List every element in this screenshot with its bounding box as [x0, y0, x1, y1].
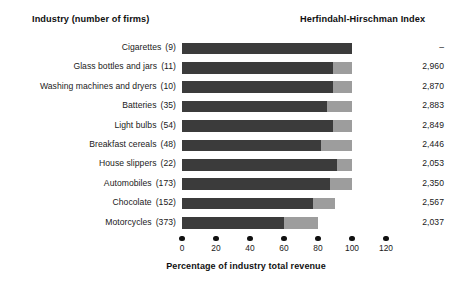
firm-count: (22) — [161, 158, 176, 168]
tick-dot-icon — [315, 236, 320, 241]
tick-label: 100 — [334, 243, 370, 253]
chart-row: Automobiles(173)2,350 — [0, 176, 450, 195]
bar-segment-dark — [182, 198, 313, 210]
tick-dot-icon — [349, 236, 354, 241]
firm-count: (173) — [156, 178, 176, 188]
row-label: Batteries(35) — [122, 100, 176, 110]
row-label: Glass bottles and jars(11) — [73, 61, 176, 71]
firm-count: (373) — [156, 217, 176, 227]
tick-dot-icon — [281, 236, 286, 241]
hhi-column-header: Herfindahl-Hirschman Index — [300, 14, 425, 24]
bar-track — [182, 120, 408, 132]
tick-label: 0 — [164, 243, 200, 253]
x-axis: 020406080100120 Percentage of industry t… — [0, 236, 450, 286]
bar-segment-dark — [182, 140, 321, 152]
hhi-value: 2,567 — [392, 197, 444, 207]
bar-track — [182, 101, 408, 113]
row-label: Light bulbs(54) — [114, 120, 176, 130]
chart-row: Breakfast cereals(48)2,446 — [0, 137, 450, 156]
bar-segment-dark — [182, 178, 330, 190]
hhi-value: 2,883 — [392, 100, 444, 110]
firm-count: (54) — [161, 120, 176, 130]
industry-name: Glass bottles and jars — [73, 61, 157, 71]
firm-count: (9) — [165, 42, 176, 52]
firm-count: (11) — [161, 61, 176, 71]
hhi-value: 2,849 — [392, 120, 444, 130]
row-label: Cigarettes(9) — [122, 42, 176, 52]
hhi-value: 2,053 — [392, 158, 444, 168]
bar-segment-light — [330, 178, 352, 190]
bar-track — [182, 217, 408, 229]
row-label: Washing machines and dryers(10) — [40, 81, 176, 91]
bar-track — [182, 81, 408, 93]
hhi-value: 2,350 — [392, 178, 444, 188]
firm-count: (10) — [161, 81, 176, 91]
chart-row: Batteries(35)2,883 — [0, 98, 450, 117]
bar-track — [182, 62, 408, 74]
tick-dot-icon — [383, 236, 388, 241]
industry-column-header: Industry (number of firms) — [32, 14, 149, 24]
row-label: Motorcycles(373) — [105, 217, 176, 227]
bar-track — [182, 198, 408, 210]
firm-count: (48) — [161, 139, 176, 149]
hhi-value: 2,960 — [392, 61, 444, 71]
bar-segment-light — [321, 140, 352, 152]
industry-name: Chocolate — [113, 197, 152, 207]
bar-segment-light — [284, 217, 318, 229]
industry-name: House slippers — [99, 158, 157, 168]
industry-name: Light bulbs — [114, 120, 156, 130]
row-label: Breakfast cereals(48) — [89, 139, 176, 149]
industry-name: Automobiles — [104, 178, 152, 188]
bar-segment-light — [327, 101, 353, 113]
tick-label: 120 — [368, 243, 404, 253]
chart-row: Motorcycles(373)2,037 — [0, 215, 450, 234]
bar-segment-dark — [182, 43, 352, 55]
bar-segment-dark — [182, 101, 327, 113]
bar-segment-dark — [182, 81, 333, 93]
bar-segment-dark — [182, 62, 333, 74]
bar-segment-light — [337, 159, 352, 171]
bar-segment-light — [313, 198, 335, 210]
industry-name: Washing machines and dryers — [40, 81, 157, 91]
industry-name: Breakfast cereals — [89, 139, 156, 149]
bar-segment-dark — [182, 217, 284, 229]
bar-segment-dark — [182, 159, 337, 171]
tick-dot-icon — [247, 236, 252, 241]
chart-row: Washing machines and dryers(10)2,870 — [0, 79, 450, 98]
bar-segment-light — [333, 120, 352, 132]
row-label: Chocolate(152) — [113, 197, 176, 207]
chart-row: Chocolate(152)2,567 — [0, 195, 450, 214]
bar-segment-dark — [182, 120, 333, 132]
row-label: Automobiles(173) — [104, 178, 176, 188]
tick-dot-icon — [179, 236, 184, 241]
bar-track — [182, 140, 408, 152]
x-axis-title: Percentage of industry total revenue — [0, 261, 450, 271]
hhi-value: 2,037 — [392, 217, 444, 227]
industry-name: Batteries — [122, 100, 156, 110]
bar-segment-light — [333, 62, 352, 74]
tick-label: 80 — [300, 243, 336, 253]
row-label: House slippers(22) — [99, 158, 176, 168]
hhi-chart: Industry (number of firms) Herfindahl-Hi… — [0, 0, 450, 286]
industry-name: Motorcycles — [105, 217, 151, 227]
firm-count: (35) — [161, 100, 176, 110]
bar-track — [182, 178, 408, 190]
chart-row: Cigarettes(9)– — [0, 40, 450, 59]
industry-name: Cigarettes — [122, 42, 162, 52]
bar-track — [182, 159, 408, 171]
chart-row: Glass bottles and jars(11)2,960 — [0, 59, 450, 78]
chart-rows: Cigarettes(9)–Glass bottles and jars(11)… — [0, 40, 450, 234]
firm-count: (152) — [156, 197, 176, 207]
bar-track — [182, 43, 408, 55]
chart-row: Light bulbs(54)2,849 — [0, 118, 450, 137]
hhi-value: 2,446 — [392, 139, 444, 149]
chart-row: House slippers(22)2,053 — [0, 156, 450, 175]
tick-dot-icon — [213, 236, 218, 241]
hhi-value: – — [392, 42, 444, 52]
bar-segment-light — [333, 81, 352, 93]
tick-label: 60 — [266, 243, 302, 253]
tick-label: 20 — [198, 243, 234, 253]
tick-label: 40 — [232, 243, 268, 253]
hhi-value: 2,870 — [392, 81, 444, 91]
